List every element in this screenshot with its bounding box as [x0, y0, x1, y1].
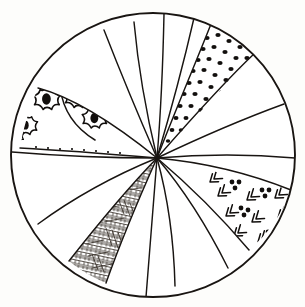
figure-root: 1.: [0, 0, 305, 307]
circle-spiral-diagram: [0, 0, 305, 307]
